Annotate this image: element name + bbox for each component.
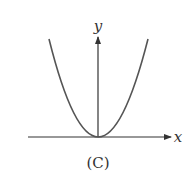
figure-caption: (C) — [86, 154, 109, 172]
parabola-diagram: y x (C) — [0, 0, 193, 180]
x-axis-label: x — [174, 128, 183, 146]
y-axis-label: y — [93, 17, 103, 35]
